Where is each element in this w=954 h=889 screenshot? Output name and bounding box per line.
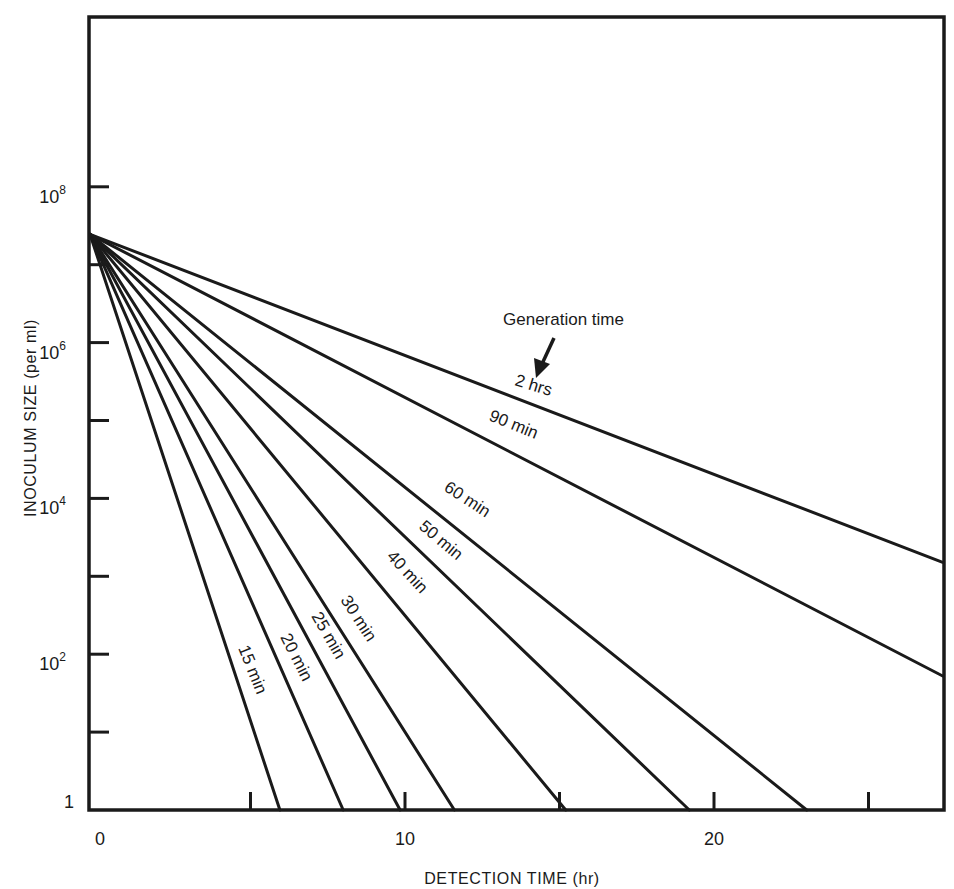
y-tick-label: 106: [39, 339, 66, 363]
x-axis-ticks: 01020: [95, 792, 869, 849]
generation-time-annotation: Generation time: [503, 310, 624, 378]
series-line-60-min: [90, 234, 807, 810]
annotation-arrow-shaft: [542, 338, 554, 364]
x-tick-label: 10: [395, 829, 415, 849]
series-line-30-min: [90, 234, 454, 810]
y-tick-label: 108: [39, 183, 66, 207]
y-axis-title: INOCULUM SIZE (per ml): [22, 319, 39, 517]
plot-frame: [89, 17, 944, 810]
series-label-60-min: 60 min: [441, 477, 494, 521]
series-label-50-min: 50 min: [415, 517, 466, 564]
x-axis-title: DETECTION TIME (hr): [424, 870, 600, 887]
y-tick-label: 1: [64, 792, 74, 812]
series-line-40-min: [90, 234, 566, 810]
series-line-20-min: [90, 234, 343, 810]
series-line-90-min: [90, 234, 943, 676]
annotation-label: Generation time: [503, 310, 624, 329]
y-tick-label: 104: [39, 494, 66, 518]
series-label-2-hrs: 2 hrs: [513, 371, 555, 400]
series-line-2-hrs: [90, 234, 943, 562]
y-axis-ticks: 1102104106108: [39, 183, 109, 812]
chart: 01020 1102104106108 15 min20 min25 min30…: [0, 0, 954, 889]
series-line-25-min: [90, 234, 400, 810]
x-tick-label: 0: [95, 829, 105, 849]
series-label-20-min: 20 min: [276, 630, 316, 684]
series-line-15-min: [90, 234, 280, 810]
arrow-down-icon: [534, 358, 550, 378]
y-tick-label: 102: [39, 650, 66, 674]
series-label-90-min: 90 min: [487, 406, 541, 443]
x-tick-label: 20: [704, 829, 724, 849]
